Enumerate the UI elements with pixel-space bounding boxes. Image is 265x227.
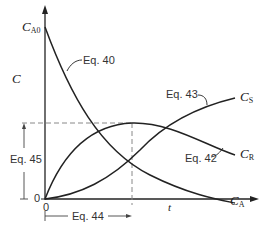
y-origin-label: 0 (34, 193, 40, 204)
eq40-label: Eq. 40 (83, 55, 115, 66)
curve-ca (45, 27, 235, 203)
x-origin-label: 0 (43, 202, 49, 213)
eq44-arrow-right-icon (126, 214, 132, 218)
cs-label: CS (240, 90, 253, 105)
x-axis-label: t (168, 202, 171, 213)
x-axis-arrow-icon (250, 196, 259, 202)
curve-cs (45, 98, 235, 199)
eq45-label: Eq. 45 (10, 154, 42, 165)
cr-label: CR (240, 147, 254, 162)
y-axis-label: C (12, 72, 21, 85)
eq45-arrow-up-icon (22, 123, 26, 129)
eq44-label: Eq. 44 (72, 211, 104, 222)
y-axis-arrow-icon (42, 5, 48, 14)
ca0-label: CA0 (22, 20, 40, 35)
eq42-label: Eq. 42 (185, 153, 217, 164)
eq40-leader (67, 60, 82, 71)
ca-label: CA (230, 194, 244, 209)
eq43-label: Eq. 43 (166, 89, 198, 100)
eq43-leader (198, 95, 207, 105)
